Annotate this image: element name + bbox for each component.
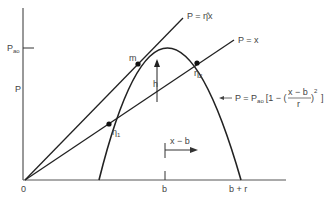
svg-text:]: ] xyxy=(321,93,324,103)
formula-denominator: r xyxy=(297,99,300,109)
svg-text:2: 2 xyxy=(314,88,318,94)
point-eta1 xyxy=(106,121,111,126)
svg-text:): ) xyxy=(311,93,314,103)
formula-pointer-head-icon xyxy=(219,96,224,100)
svg-text:P = Pao[1 − (: P = Pao[1 − ( xyxy=(235,93,287,104)
parabola-curve xyxy=(99,48,241,180)
parabola-formula: P = Pao[1 − ( x − b r ) 2 ] xyxy=(235,87,324,109)
x-tick-label-b: b xyxy=(162,184,167,194)
parabola-line-intersection-diagram: Pao P 0 b b + r P = η̂x P = x m η2 η1 h … xyxy=(0,0,328,198)
y-tick-label-pao: Pao xyxy=(7,43,20,54)
point-eta2 xyxy=(194,60,199,65)
formula-numerator: x − b xyxy=(288,87,308,97)
point-eta1-label: η1 xyxy=(112,127,121,138)
x-minus-b-label: x − b xyxy=(170,136,190,146)
x-minus-b-arrow-head-icon xyxy=(190,147,198,153)
point-m-label: m xyxy=(129,53,137,63)
line-upper-label: P = η̂x xyxy=(187,11,213,21)
h-label: h xyxy=(153,79,158,89)
line-eta-hat-x xyxy=(25,18,183,180)
x-tick-label-b-plus-r: b + r xyxy=(229,184,247,194)
origin-label: 0 xyxy=(21,184,26,194)
line-lower-label: P = x xyxy=(238,35,259,45)
y-axis-label: P xyxy=(15,84,21,94)
h-arrow-head-icon xyxy=(154,59,160,67)
point-eta2-label: η2 xyxy=(194,68,203,79)
